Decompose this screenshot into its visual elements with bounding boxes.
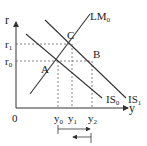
is1-curve [45, 20, 126, 98]
origin-label: 0 [12, 112, 18, 124]
lm0-label: LM0 [90, 10, 111, 24]
y2-label: y2 [88, 112, 98, 126]
r1-label: r1 [5, 38, 13, 52]
point-b-label: B [93, 48, 100, 60]
point-a-label: A [41, 63, 49, 75]
r-axis-label: r [5, 13, 9, 27]
is0-label: IS0 [106, 93, 120, 107]
diagram-canvas: r y 0 LM0 IS0 IS1 A B C r1 r0 y0 y1 y2 [0, 0, 147, 146]
is1-label: IS1 [128, 93, 142, 107]
r0-label: r0 [5, 55, 13, 69]
islm-diagram: r y 0 LM0 IS0 IS1 A B C r1 r0 y0 y1 y2 [0, 0, 147, 146]
y0-label: y0 [54, 112, 64, 126]
point-c-label: C [67, 29, 74, 41]
y1-label: y1 [68, 112, 78, 126]
